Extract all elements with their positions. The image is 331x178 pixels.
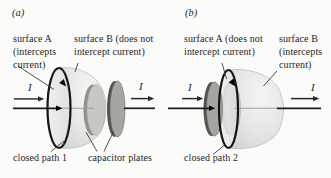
surface-a-label-b: surface A (does not intercept current) — [184, 33, 263, 59]
surface-a-label-a: surface A (intercepts current) — [13, 33, 56, 71]
current-label-a-left: I — [28, 81, 32, 93]
leader-capacitor-right — [104, 132, 114, 152]
current-arrow-a-right — [131, 96, 154, 101]
current-arrow-b-left — [182, 96, 203, 101]
current-label-b-right: I — [311, 81, 315, 93]
ampere-law-capacitor-figure: (a) surface A (intercepts current) surfa… — [0, 0, 331, 178]
capacitor-plates-label: capacitor plates — [88, 152, 152, 165]
capacitor-plate-right-face-a — [110, 81, 125, 137]
panel-a-tag: (a) — [12, 7, 24, 18]
current-arrow-b-right — [291, 96, 319, 101]
current-arrow-a-left — [14, 96, 44, 101]
closed-path-2-label: closed path 2 — [184, 152, 238, 165]
surface-b-label-a: surface B (does not intercept current) — [74, 33, 153, 59]
closed-path-1-label: closed path 1 — [13, 152, 67, 165]
capacitor-plate-left-face-a — [87, 85, 105, 136]
panel-b-tag: (b) — [185, 7, 197, 18]
current-label-a-right: I — [139, 80, 143, 92]
current-label-b-left: I — [188, 81, 192, 93]
surface-b-label-b: surface B (intercepts current) — [279, 33, 322, 71]
